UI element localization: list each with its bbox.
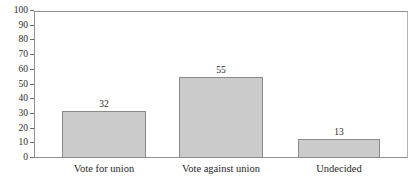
y-tick-label: 0 xyxy=(23,151,28,164)
y-axis: 0 10 20 30 40 50 60 70 xyxy=(0,11,34,158)
y-tick-label: 90 xyxy=(19,19,29,32)
y-tick-label: 100 xyxy=(14,4,28,17)
y-tick-label: 70 xyxy=(19,48,29,61)
y-tick-label: 50 xyxy=(19,78,29,91)
bar-vote-for-union[interactable] xyxy=(62,111,146,158)
bar-group-2: 13 xyxy=(298,11,380,158)
bar-group-1: 55 xyxy=(179,11,263,158)
bar-chart: 0 10 20 30 40 50 60 70 xyxy=(0,0,419,183)
bar-value-label: 32 xyxy=(62,98,146,110)
y-tick-label: 80 xyxy=(19,33,29,46)
y-tick-label: 10 xyxy=(19,136,29,149)
x-axis-labels: Vote for union Vote against union Undeci… xyxy=(34,161,408,183)
bar-vote-against-union[interactable] xyxy=(179,77,263,158)
bar-undecided[interactable] xyxy=(298,139,380,158)
y-tick-label: 60 xyxy=(19,63,29,76)
bar-group-0: 32 xyxy=(62,11,146,158)
y-tick-label: 20 xyxy=(19,122,29,135)
x-label-vote-for-union: Vote for union xyxy=(44,161,164,177)
bars-layer: 32 55 13 xyxy=(34,11,408,158)
x-label-undecided: Undecided xyxy=(279,161,399,177)
bar-value-label: 55 xyxy=(179,64,263,76)
y-tick-label: 40 xyxy=(19,92,29,105)
x-label-vote-against-union: Vote against union xyxy=(161,161,281,177)
bar-value-label: 13 xyxy=(298,126,380,138)
y-tick-label: 30 xyxy=(19,107,29,120)
